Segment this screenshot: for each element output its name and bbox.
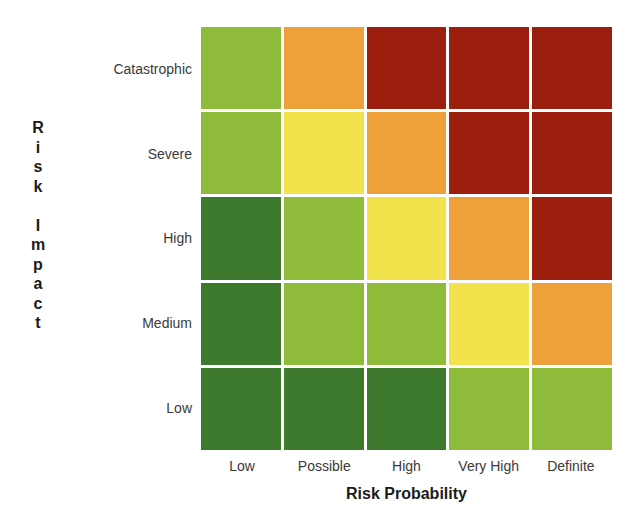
x-axis-title: Risk Probability xyxy=(201,485,612,503)
y-axis-title-letter: t xyxy=(35,313,40,333)
matrix-cell xyxy=(367,27,447,109)
matrix-cell xyxy=(532,112,612,194)
column-labels: Low Possible High Very High Definite xyxy=(201,458,612,474)
row-label-catastrophic: Catastrophic xyxy=(90,27,192,112)
matrix-cell xyxy=(284,112,364,194)
matrix-cell xyxy=(449,197,529,279)
matrix-cell xyxy=(449,27,529,109)
y-axis-title-letter: s xyxy=(34,157,43,177)
col-label-possible: Possible xyxy=(283,458,365,474)
y-axis-title-letter: m xyxy=(31,235,45,255)
matrix-cell xyxy=(284,368,364,450)
col-label-definite: Definite xyxy=(530,458,612,474)
matrix-cell xyxy=(532,197,612,279)
y-axis-title-letter: c xyxy=(34,294,43,314)
matrix-cell xyxy=(532,283,612,365)
y-axis-title: RiskImpact xyxy=(28,118,48,333)
row-label-medium: Medium xyxy=(90,281,192,366)
y-axis-title-letter: R xyxy=(32,118,44,138)
matrix-cell xyxy=(367,283,447,365)
row-label-low: Low xyxy=(90,365,192,450)
matrix-cell xyxy=(284,27,364,109)
matrix-cell xyxy=(201,112,281,194)
y-axis-title-letter: k xyxy=(34,177,43,197)
matrix-cell xyxy=(284,197,364,279)
matrix-cell xyxy=(367,197,447,279)
row-label-severe: Severe xyxy=(90,112,192,197)
matrix-cell xyxy=(201,368,281,450)
y-axis-title-letter: I xyxy=(36,216,40,236)
matrix-cell xyxy=(449,283,529,365)
matrix-cell xyxy=(532,27,612,109)
matrix-cell xyxy=(284,283,364,365)
matrix-cell xyxy=(201,27,281,109)
col-label-high: High xyxy=(365,458,447,474)
y-axis-title-letter: p xyxy=(33,255,43,275)
y-axis-title-letter: i xyxy=(36,138,40,158)
matrix-cell xyxy=(201,283,281,365)
matrix-cell xyxy=(449,112,529,194)
matrix-cell xyxy=(201,197,281,279)
row-labels: Catastrophic Severe High Medium Low xyxy=(90,27,192,450)
matrix-cell xyxy=(367,112,447,194)
y-axis-title-letter: a xyxy=(34,274,43,294)
matrix-cell xyxy=(367,368,447,450)
row-label-high: High xyxy=(90,196,192,281)
matrix-cell xyxy=(532,368,612,450)
col-label-low: Low xyxy=(201,458,283,474)
col-label-very-high: Very High xyxy=(448,458,530,474)
risk-matrix-grid xyxy=(201,27,612,450)
matrix-cell xyxy=(449,368,529,450)
